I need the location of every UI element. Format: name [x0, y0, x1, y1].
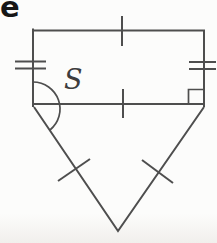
right-angle-marker	[189, 90, 205, 105]
angle-s-arc	[33, 82, 60, 130]
angle-s-label: S	[64, 66, 83, 93]
triangle-left-side-tick	[58, 159, 90, 181]
triangle-right-side-tick	[142, 160, 173, 183]
geometry-figure	[0, 0, 217, 243]
figure-canvas: e S	[0, 0, 217, 243]
quadrilateral-sides	[33, 29, 204, 108]
triangle-sides	[34, 107, 204, 231]
